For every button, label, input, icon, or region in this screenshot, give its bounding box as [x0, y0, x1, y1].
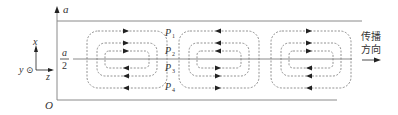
svg-text:P: P [164, 27, 171, 38]
svg-text:传播: 传播 [361, 30, 381, 42]
coordinate-system: x y ⊙ z [18, 36, 54, 82]
propagation-arrow-icon [374, 58, 381, 63]
point-label-p4: P 4 [164, 81, 175, 93]
point-label-p3: P 3 [164, 62, 175, 74]
out-of-page-icon: ⊙ [26, 65, 34, 75]
label-origin: O [45, 99, 53, 111]
svg-text:y: y [18, 64, 24, 75]
svg-text:1: 1 [172, 33, 175, 39]
point-label-p1: P 1 [164, 27, 175, 39]
svg-text:4: 4 [172, 87, 175, 93]
svg-text:3: 3 [172, 68, 175, 74]
svg-text:2: 2 [62, 60, 67, 71]
diagram-canvas: a a 2 O x y ⊙ z [0, 0, 398, 115]
vertical-axis [55, 6, 60, 100]
label-a-half: a 2 [60, 47, 69, 71]
svg-text:2: 2 [172, 51, 175, 57]
svg-text:方向: 方向 [361, 43, 381, 55]
svg-text:P: P [164, 45, 171, 56]
svg-text:a: a [62, 47, 67, 58]
axis-arrow-icon [55, 6, 60, 13]
label-a-top: a [63, 3, 69, 15]
svg-text:P: P [164, 81, 171, 92]
point-label-p2: P 2 [164, 45, 175, 57]
svg-text:x: x [32, 36, 38, 47]
svg-text:P: P [164, 62, 171, 73]
svg-text:z: z [45, 71, 50, 82]
propagation-direction: 传播 方向 [361, 30, 381, 63]
